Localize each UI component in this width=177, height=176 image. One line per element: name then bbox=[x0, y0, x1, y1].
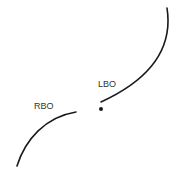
lower-left-curve bbox=[17, 112, 76, 166]
label-lbo: LBO bbox=[98, 80, 116, 89]
diagram-canvas: LBO RBO bbox=[0, 0, 177, 176]
diagram-svg bbox=[0, 0, 177, 176]
center-dot bbox=[99, 107, 103, 111]
label-rbo: RBO bbox=[34, 102, 54, 111]
